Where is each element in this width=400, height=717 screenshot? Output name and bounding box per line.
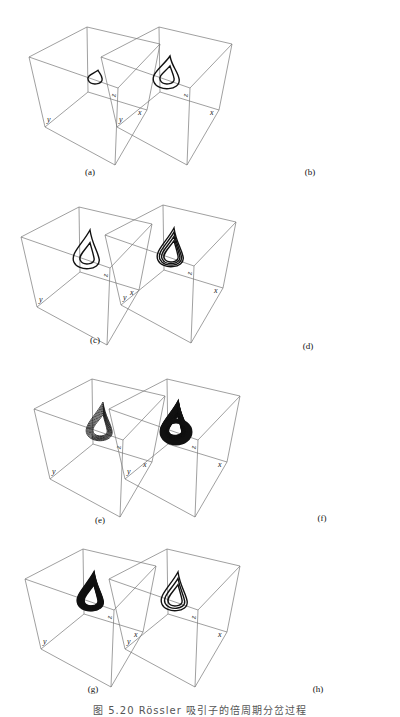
panel-h: xyz: [109, 549, 240, 687]
panel-f: xyz: [109, 379, 240, 517]
axis-label-x: x: [137, 108, 142, 117]
attractor-curve: [161, 572, 187, 611]
axis-label-z: z: [189, 444, 199, 450]
attractor-curve: [153, 56, 179, 89]
panel-d: xyz: [105, 205, 236, 343]
panel-label-h: (h): [303, 684, 333, 694]
axis-label-y: y: [126, 637, 131, 646]
panel-e: xyz: [34, 379, 165, 517]
axis-label-y: y: [46, 115, 51, 124]
axis-label-z: z: [189, 614, 199, 620]
attractor-curve: [161, 402, 190, 443]
axis-label-z: z: [105, 614, 115, 620]
axis-label-y: y: [38, 295, 43, 304]
figure-caption: 图 5.20 Rössler 吸引子的倍周期分岔过程: [0, 702, 400, 717]
axis-label-z: z: [185, 270, 195, 276]
axis-label-z: z: [101, 272, 111, 278]
panel-g: xyz: [25, 549, 156, 687]
axis-label-y: y: [51, 467, 56, 476]
axis-label-y: y: [122, 293, 127, 302]
panel-label-e: (e): [85, 515, 115, 525]
axis-label-y: y: [118, 115, 123, 124]
axis-label-y: y: [42, 637, 47, 646]
panel-label-d: (d): [293, 341, 323, 351]
axis-label-x: x: [213, 286, 218, 295]
axis-label-x: x: [129, 288, 134, 297]
panel-a: xyz: [29, 27, 160, 165]
axis-label-z: z: [181, 92, 191, 98]
axis-label-x: x: [209, 108, 214, 117]
panel-label-g: (g): [78, 684, 108, 694]
axis-label-x: x: [217, 460, 222, 469]
attractor-curve: [77, 572, 103, 611]
panel-label-b: (b): [295, 167, 325, 177]
attractor-curve: [157, 228, 183, 267]
panel-label-f: (f): [307, 513, 337, 523]
panel-label-a: (a): [75, 167, 105, 177]
axis-label-x: x: [133, 630, 138, 639]
panel-c: xyz: [21, 207, 152, 345]
panel-label-c: (c): [80, 335, 110, 345]
panel-b: xyz: [101, 27, 232, 165]
axis-label-x: x: [217, 630, 222, 639]
axis-label-y: y: [126, 467, 131, 476]
attractor-curve: [86, 402, 112, 441]
